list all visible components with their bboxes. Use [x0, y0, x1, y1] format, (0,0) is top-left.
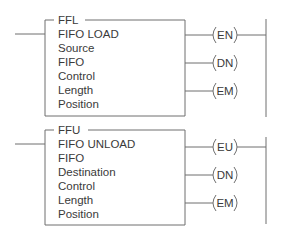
- coil-label: EM: [216, 85, 233, 97]
- param-label: Position: [58, 208, 99, 220]
- coil-right-arc-icon: [234, 139, 237, 155]
- instruction-title: FIFO LOAD: [58, 28, 119, 40]
- param-label: Length: [58, 84, 93, 96]
- coil-left-arc-icon: [213, 139, 216, 155]
- coil-right-arc-icon: [234, 83, 237, 99]
- coil-right-arc-icon: [234, 27, 237, 43]
- coil-dn: DN: [213, 167, 237, 183]
- coil-eu: EU: [213, 139, 237, 155]
- instruction-mnemonic: FFL: [58, 14, 79, 26]
- coil-dn: DN: [213, 55, 237, 71]
- ffl-rung: FFL FIFO LOAD Source FIFO Control Length…: [15, 14, 266, 117]
- param-label: Source: [58, 42, 94, 54]
- param-label: FIFO: [58, 56, 84, 68]
- instruction-mnemonic: FFU: [58, 124, 80, 136]
- coil-label: EM: [216, 197, 233, 209]
- coil-label: DN: [217, 57, 234, 69]
- ffu-rung: FFU FIFO UNLOAD FIFO Destination Control…: [15, 124, 266, 225]
- coil-right-arc-icon: [234, 55, 237, 71]
- coil-em: EM: [213, 83, 237, 99]
- param-label: Position: [58, 98, 99, 110]
- param-label: Control: [58, 180, 95, 192]
- coil-en: EN: [213, 27, 237, 43]
- coil-left-arc-icon: [213, 55, 216, 71]
- param-label: Control: [58, 70, 95, 82]
- coil-label: EU: [217, 141, 233, 153]
- ladder-diagram: FFL FIFO LOAD Source FIFO Control Length…: [0, 0, 282, 240]
- coil-right-arc-icon: [234, 195, 237, 211]
- instruction-title: FIFO UNLOAD: [58, 138, 135, 150]
- coil-label: EN: [217, 29, 233, 41]
- coil-em: EM: [213, 195, 237, 211]
- coil-right-arc-icon: [234, 167, 237, 183]
- param-label: Length: [58, 194, 93, 206]
- coil-label: DN: [217, 169, 234, 181]
- coil-left-arc-icon: [213, 27, 216, 43]
- coil-left-arc-icon: [213, 167, 216, 183]
- param-label: Destination: [58, 166, 116, 178]
- param-label: FIFO: [58, 152, 84, 164]
